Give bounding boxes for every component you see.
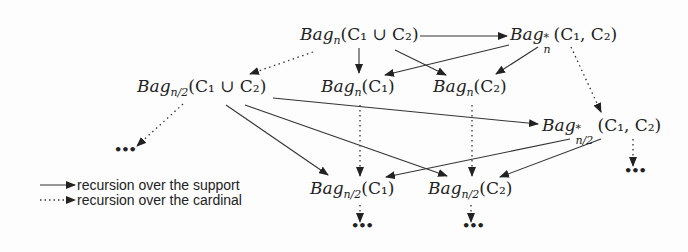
edge-solid xyxy=(245,105,447,176)
node-bag-n-union: Bagn(C₁ ∪ C₂) xyxy=(300,26,419,46)
node-args: (C₁) xyxy=(361,178,394,198)
node-args: (C₁ ∪ C₂) xyxy=(188,76,266,96)
node-base: Bag xyxy=(137,76,171,96)
node-subscript: n/2 xyxy=(171,86,189,99)
ellipsis-c1: ••• xyxy=(351,219,373,232)
node-args: (C₁ ∪ C₂) xyxy=(341,24,419,44)
ellipsis-right: ••• xyxy=(624,164,646,177)
node-superscript: * xyxy=(576,123,582,134)
node-subscript: n xyxy=(334,34,341,47)
node-subscript: n xyxy=(544,44,551,55)
node-base: Bag xyxy=(300,24,334,44)
node-args: (C₁, C₂) xyxy=(598,115,662,135)
node-args: (C₁) xyxy=(362,76,395,96)
recursion-diagram: Bagn(C₁ ∪ C₂) Bag*n(C₁, C₂) Bagn/2(C₁ ∪ … xyxy=(0,0,688,252)
edge-dotted xyxy=(250,52,313,74)
node-bag-n2-union: Bagn/2(C₁ ∪ C₂) xyxy=(137,78,266,98)
legend-dotted-label: recursion over the cardinal xyxy=(77,193,242,207)
node-bag-star-n2: Bag*n/2(C₁, C₂) xyxy=(542,117,661,134)
node-subscript: n/2 xyxy=(462,188,480,201)
node-bag-n-c2: Bagn(C₂) xyxy=(433,78,507,98)
node-subscript: n xyxy=(467,86,474,99)
edge-solid xyxy=(386,139,570,177)
node-args: (C₁, C₂) xyxy=(554,24,618,44)
node-args: (C₂) xyxy=(474,76,507,96)
edge-dotted xyxy=(571,47,601,112)
edge-solid xyxy=(226,105,328,175)
node-bag-n2-c1: Bagn/2(C₁) xyxy=(310,180,394,200)
node-superscript: * xyxy=(544,32,550,43)
node-args: (C₂) xyxy=(479,178,512,198)
node-subscript: n/2 xyxy=(344,188,362,201)
edge-solid xyxy=(385,45,509,75)
node-bag-n2-c2: Bagn/2(C₂) xyxy=(428,180,512,200)
node-base: Bag xyxy=(433,76,467,96)
edge-solid xyxy=(496,47,538,74)
ellipsis-c2: ••• xyxy=(462,219,484,232)
node-base: Bag xyxy=(310,178,344,198)
node-bag-star-n: Bag*n(C₁, C₂) xyxy=(510,26,617,43)
node-base: Bag xyxy=(321,76,355,96)
node-base: Bag xyxy=(542,115,576,135)
node-subscript: n xyxy=(355,86,362,99)
ellipsis-left: ••• xyxy=(114,143,136,156)
node-base: Bag xyxy=(510,24,544,44)
node-base: Bag xyxy=(428,178,462,198)
node-subscript: n/2 xyxy=(576,135,594,146)
edge-solid xyxy=(273,98,538,124)
legend-solid-label: recursion over the support xyxy=(77,178,240,192)
node-bag-n-c1: Bagn(C₁) xyxy=(321,78,395,98)
edge-dotted xyxy=(137,104,183,146)
